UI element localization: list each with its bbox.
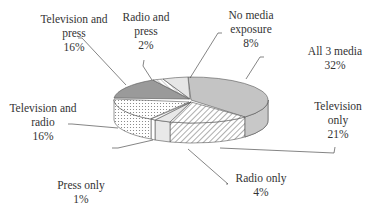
label-television-only: Television only 21% [305, 99, 371, 141]
label-text: Television and [0, 101, 86, 115]
pie-top [114, 77, 268, 123]
label-television-and-press: Television and press 16% [24, 12, 124, 54]
label-text: only [305, 113, 371, 127]
label-text: Radio and [116, 10, 176, 24]
label-text: press [116, 24, 176, 38]
label-value: 21% [305, 127, 371, 141]
label-text: Radio only [226, 171, 296, 185]
label-text: All 3 media [300, 44, 370, 58]
label-radio-only: Radio only 4% [226, 171, 296, 199]
label-text: Press only [50, 178, 112, 192]
label-all-3-media: All 3 media 32% [300, 44, 370, 72]
label-value: 16% [0, 129, 86, 143]
label-value: 4% [226, 185, 296, 199]
label-press-only: Press only 1% [50, 178, 112, 206]
label-text: No media [216, 8, 286, 22]
label-radio-and-press: Radio and press 2% [116, 10, 176, 52]
label-text: Television [305, 99, 371, 113]
label-value: 32% [300, 58, 370, 72]
label-text: press [24, 26, 124, 40]
label-value: 1% [50, 192, 112, 206]
label-text: exposure [216, 22, 286, 36]
label-value: 2% [116, 38, 176, 52]
label-text: Television and [24, 12, 124, 26]
label-no-media-exposure: No media exposure 8% [216, 8, 286, 50]
label-television-and-radio: Television and radio 16% [0, 101, 86, 143]
label-text: radio [0, 115, 86, 129]
label-value: 16% [24, 40, 124, 54]
label-value: 8% [216, 36, 286, 50]
